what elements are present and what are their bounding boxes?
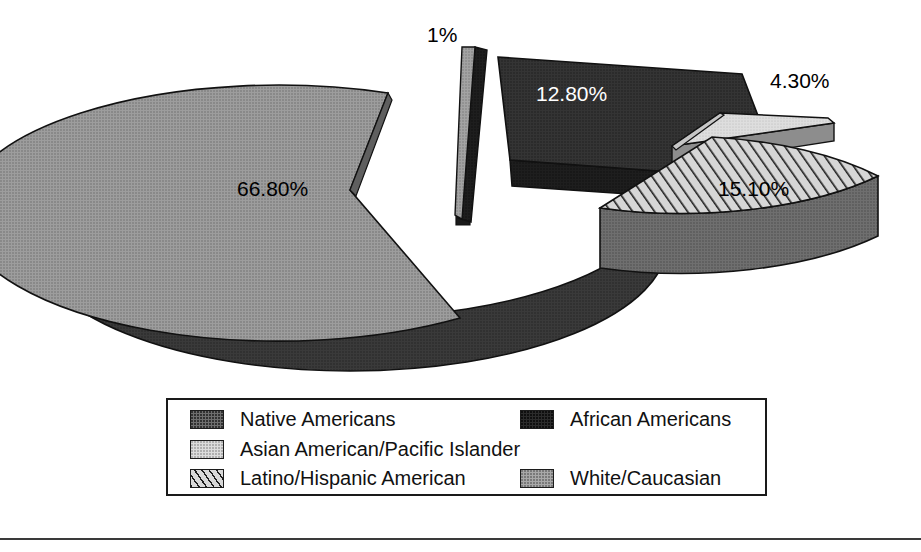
slice-label-asian-american-pacific-islander: 4.30% [770, 69, 830, 92]
pie-chart-figure: 12.80% 4.30% 15.10% 66.80% 1% Native A [0, 0, 921, 552]
legend-item-latino-hispanic-american[interactable]: Latino/Hispanic American [190, 465, 466, 491]
chart-legend: Native Americans African Americans Asian… [166, 398, 767, 496]
legend-label-latino-hispanic-american: Latino/Hispanic American [240, 468, 466, 488]
slice-native-americans[interactable] [455, 47, 487, 225]
latino-hispanic-american-swatch [190, 469, 224, 488]
legend-label-white-caucasian: White/Caucasian [570, 468, 721, 488]
legend-item-native-americans[interactable]: Native Americans [190, 406, 396, 432]
legend-item-asian-american-pacific-islander[interactable]: Asian American/Pacific Islander [190, 436, 520, 462]
legend-label-native-americans: Native Americans [240, 409, 396, 429]
white-caucasian-swatch [520, 469, 554, 488]
slice-label-white-caucasian: 66.80% [237, 177, 308, 200]
legend-label-african-americans: African Americans [570, 409, 731, 429]
footer-divider [0, 538, 921, 540]
african-americans-swatch [520, 410, 554, 429]
slice-label-african-americans: 12.80% [536, 82, 607, 105]
asian-american-pacific-islander-swatch [190, 440, 224, 459]
slice-label-native-americans: 1% [427, 23, 457, 46]
legend-label-asian-american-pacific-islander: Asian American/Pacific Islander [240, 439, 520, 459]
slice-label-latino-hispanic-american: 15.10% [718, 177, 789, 200]
legend-item-african-americans[interactable]: African Americans [520, 406, 731, 432]
native-americans-swatch [190, 410, 224, 429]
legend-item-white-caucasian[interactable]: White/Caucasian [520, 465, 721, 491]
